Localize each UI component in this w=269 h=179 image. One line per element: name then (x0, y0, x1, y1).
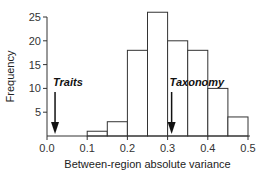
y-axis-title: Frequency (4, 50, 16, 102)
x-tick-label: 0.1 (80, 142, 95, 154)
annotation-label: Taxonomy (170, 76, 225, 88)
histogram-chart: 0.00.10.20.30.40.5 510152025 TraitsTaxon… (0, 0, 269, 179)
x-axis-title: Between-region absolute variance (64, 158, 230, 170)
y-tick-label: 20 (29, 35, 41, 47)
x-tick-label: 0.3 (160, 142, 175, 154)
x-tick-label: 0.4 (200, 142, 215, 154)
x-tick-label: 0.5 (240, 142, 255, 154)
bar-7 (228, 117, 248, 136)
bars-group (87, 12, 248, 136)
bar-1 (107, 122, 127, 136)
y-ticks: 510152025 (29, 11, 47, 118)
annotation-label: Traits (53, 76, 83, 88)
y-tick-label: 5 (35, 106, 41, 118)
bar-3 (148, 12, 168, 136)
y-tick-label: 25 (29, 11, 41, 23)
y-tick-label: 15 (29, 59, 41, 71)
arrow-down-icon (51, 122, 59, 134)
bar-2 (127, 50, 147, 136)
annotation-traits: Traits (51, 76, 83, 134)
bar-4 (168, 41, 188, 136)
bar-0 (87, 131, 107, 136)
x-ticks: 0.00.10.20.30.40.5 (39, 136, 255, 154)
x-tick-label: 0.0 (39, 142, 54, 154)
y-tick-label: 10 (29, 82, 41, 94)
bar-6 (208, 88, 228, 136)
bar-5 (188, 50, 208, 136)
x-tick-label: 0.2 (120, 142, 135, 154)
